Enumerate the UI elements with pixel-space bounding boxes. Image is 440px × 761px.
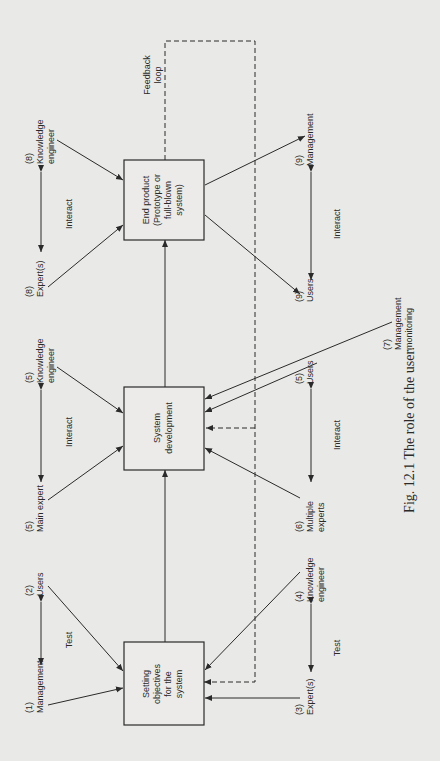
arrow-experts-to-end-product: [48, 225, 123, 287]
svg-text:engineer: engineer: [46, 348, 56, 383]
participant-multiple-experts-6: (6) Multiple experts: [294, 501, 326, 532]
svg-text:End product: End product: [141, 175, 151, 224]
svg-text:Setting: Setting: [141, 670, 151, 698]
arrow-users-to-objectives: [48, 586, 123, 671]
svg-text:full-blown: full-blown: [163, 181, 173, 219]
participant-knowledge-engineer-5: (5) Knowledge engineer: [24, 338, 56, 383]
participant-users-9: (9) Users: [294, 278, 315, 302]
arrow-main-expert-to-development: [48, 446, 123, 500]
svg-text:system: system: [174, 670, 184, 699]
svg-text:engineer: engineer: [316, 567, 326, 602]
arrow-ke-to-objectives: [205, 572, 300, 670]
svg-text:Management: Management: [393, 297, 403, 350]
participant-knowledge-engineer-4: (4) Knowledge engineer: [294, 557, 326, 602]
svg-text:(4): (4): [294, 591, 304, 602]
svg-text:(8): (8): [24, 153, 34, 164]
svg-text:(5): (5): [24, 372, 34, 383]
participant-management-1: (1) Management: [24, 660, 45, 713]
svg-text:(Prototype or: (Prototype or: [152, 174, 162, 226]
svg-text:monitoring: monitoring: [404, 308, 414, 350]
svg-text:Users: Users: [305, 360, 315, 384]
participant-users-2: (2) Users: [24, 572, 45, 596]
svg-text:engineer: engineer: [46, 129, 56, 164]
svg-text:(9): (9): [294, 155, 304, 166]
test-label-top: Test: [64, 631, 74, 648]
svg-text:Users: Users: [35, 572, 45, 596]
svg-text:Multiple: Multiple: [305, 501, 315, 532]
arrow-users-to-development: [205, 363, 317, 412]
svg-text:Expert(s): Expert(s): [305, 678, 315, 715]
svg-text:Main expert: Main expert: [35, 484, 45, 532]
svg-text:(5): (5): [24, 521, 34, 532]
svg-text:System: System: [152, 413, 162, 443]
svg-text:Knowledge: Knowledge: [305, 557, 315, 602]
interact-label-end-bottom: Interact: [332, 208, 342, 239]
figure-caption: Fig. 12.1 The role of the user.: [402, 347, 417, 513]
arrow-ke-to-end-product: [57, 140, 123, 180]
interact-label-dev-bottom: Interact: [332, 419, 342, 450]
svg-text:development: development: [164, 402, 174, 454]
svg-text:for the: for the: [163, 671, 173, 697]
svg-text:(6): (6): [294, 521, 304, 532]
svg-text:(9): (9): [294, 291, 304, 302]
svg-text:loop: loop: [153, 66, 163, 83]
svg-text:Knowledge: Knowledge: [35, 338, 45, 383]
arrow-management-to-objectives: [48, 688, 123, 705]
participant-management-monitoring-7: (7) Management monitoring: [382, 297, 414, 350]
svg-text:Expert(s): Expert(s): [35, 260, 45, 297]
feedback-loop-label: Feedback loop: [142, 55, 163, 95]
arrow-management-monitoring-to-development: [205, 322, 392, 399]
svg-text:(8): (8): [24, 286, 34, 297]
svg-text:Feedback: Feedback: [142, 55, 152, 95]
svg-text:(2): (2): [24, 585, 34, 596]
arrow-multiple-experts-to-development: [205, 448, 300, 498]
participant-experts-8: (8) Expert(s): [24, 260, 45, 297]
svg-text:Users: Users: [305, 278, 315, 302]
arrow-end-product-to-users: [205, 215, 300, 294]
arrow-ke-to-development: [57, 367, 123, 413]
svg-text:(7): (7): [382, 339, 392, 350]
interact-label-dev-top: Interact: [64, 416, 74, 447]
svg-text:(5): (5): [294, 373, 304, 384]
participant-knowledge-engineer-8: (8) Knowledge engineer: [24, 119, 56, 164]
participant-main-expert-5: (5) Main expert: [24, 484, 45, 532]
svg-text:(3): (3): [294, 704, 304, 715]
interact-label-end-top: Interact: [64, 198, 74, 229]
svg-text:experts: experts: [316, 502, 326, 532]
svg-text:(1): (1): [24, 702, 34, 713]
test-label-bottom: Test: [332, 639, 342, 656]
svg-text:system): system): [174, 184, 184, 216]
svg-text:Management: Management: [35, 660, 45, 713]
svg-text:Knowledge: Knowledge: [35, 119, 45, 164]
svg-text:Management: Management: [305, 113, 315, 166]
participant-experts-3: (3) Expert(s): [294, 678, 315, 715]
role-of-user-diagram: Setting objectives for the system System…: [0, 0, 440, 761]
svg-text:objectives: objectives: [152, 663, 162, 704]
feedback-loop-line: [165, 41, 255, 682]
